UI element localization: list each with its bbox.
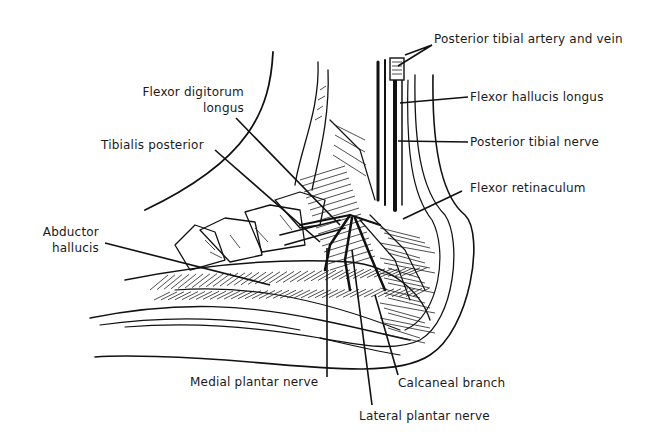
anterior-leg-outline bbox=[145, 52, 273, 210]
label-abductor-hallucis-line1: Abductor bbox=[43, 225, 99, 239]
leader-posterior-tibial-nerve bbox=[398, 141, 468, 142]
label-lateral-plantar-nerve: Lateral plantar nerve bbox=[359, 409, 490, 423]
hatch-stroke bbox=[168, 292, 184, 300]
leader-flexor-hallucis-longus bbox=[400, 97, 468, 103]
hatch-stroke bbox=[301, 290, 317, 298]
hatch-stroke bbox=[329, 290, 345, 298]
heel-soft-tissue bbox=[300, 166, 435, 343]
hatch-stroke bbox=[302, 172, 347, 186]
hatch-stroke bbox=[304, 178, 349, 192]
label-flexor-retinaculum: Flexor retinaculum bbox=[470, 181, 586, 195]
hatch-stroke bbox=[364, 289, 380, 297]
hatch-stroke bbox=[300, 166, 345, 180]
hatch-stroke bbox=[210, 291, 226, 299]
hatch-stroke bbox=[384, 323, 435, 333]
hatch-stroke bbox=[182, 292, 198, 300]
abductor-hallucis-muscle bbox=[125, 261, 430, 330]
leader-posterior-tibial-artery-vein bbox=[398, 45, 432, 66]
leader-flexor-digitorum-longus bbox=[236, 118, 340, 225]
leader-flexor-retinaculum bbox=[403, 191, 462, 219]
hatch-stroke bbox=[380, 258, 430, 268]
hatch-stroke bbox=[308, 290, 324, 298]
label-flexor-hallucis-longus: Flexor hallucis longus bbox=[470, 90, 604, 104]
hatch-stroke bbox=[380, 318, 430, 328]
hatch-stroke bbox=[310, 196, 355, 210]
hatch-stroke bbox=[357, 289, 373, 297]
hatch-stroke bbox=[161, 292, 177, 300]
hatch-stroke bbox=[238, 291, 254, 299]
hatch-stroke bbox=[231, 291, 247, 299]
hatch-stroke bbox=[413, 288, 429, 296]
hatch-stroke bbox=[175, 292, 191, 300]
hatch-stroke bbox=[315, 290, 331, 298]
tarsal-bones bbox=[175, 192, 325, 270]
label-posterior-tibial-artery-vein: Posterior tibial artery and vein bbox=[434, 32, 623, 46]
hatch-stroke bbox=[203, 291, 219, 299]
leader-tibialis-posterior bbox=[215, 150, 320, 242]
hatch-stroke bbox=[380, 303, 435, 313]
label-posterior-tibial-nerve: Posterior tibial nerve bbox=[470, 135, 599, 149]
neurovascular-bundle bbox=[378, 58, 404, 210]
leader-calcaneal-branch bbox=[375, 295, 398, 375]
hatch-stroke bbox=[224, 291, 240, 299]
sole-line-3 bbox=[125, 325, 400, 355]
sole-line-2 bbox=[100, 319, 300, 330]
ankle-anatomy-illustration bbox=[0, 0, 665, 448]
hatch-stroke bbox=[287, 290, 303, 298]
label-flexor-digitorum-longus-line2: longus bbox=[203, 101, 244, 115]
tendons bbox=[295, 62, 375, 200]
hatch-stroke bbox=[196, 291, 212, 299]
hatch-stroke bbox=[154, 292, 170, 300]
label-tibialis-posterior: Tibialis posterior bbox=[101, 138, 204, 152]
hatch-stroke bbox=[189, 292, 205, 300]
label-medial-plantar-nerve: Medial plantar nerve bbox=[190, 375, 318, 389]
label-flexor-digitorum-longus-line1: Flexor digitorum bbox=[142, 85, 244, 99]
label-abductor-hallucis-line2: hallucis bbox=[52, 241, 99, 255]
leader-lines bbox=[105, 45, 468, 405]
label-calcaneal-branch: Calcaneal branch bbox=[398, 376, 505, 390]
hatch-stroke bbox=[322, 290, 338, 298]
heel-inner-contour-2 bbox=[405, 80, 440, 330]
hatch-stroke bbox=[266, 290, 282, 298]
hatch-stroke bbox=[217, 291, 233, 299]
hatch-stroke bbox=[294, 290, 310, 298]
